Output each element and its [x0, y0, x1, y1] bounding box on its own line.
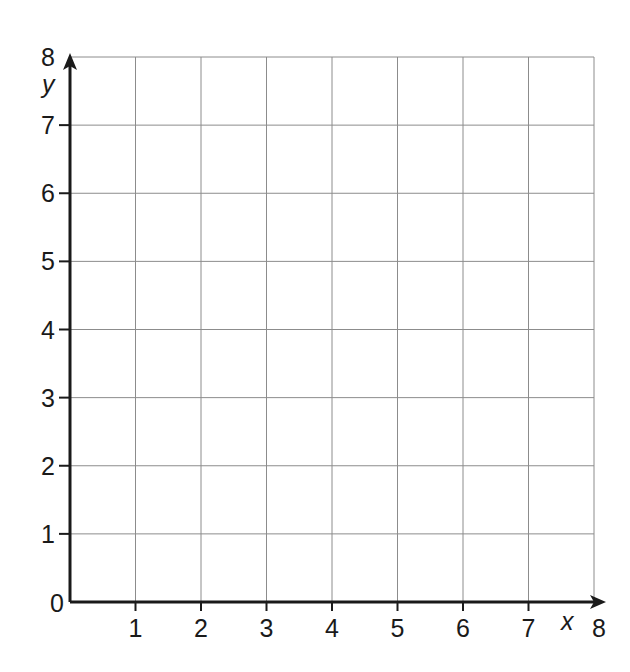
x-tick-label: 5	[391, 614, 405, 642]
tick-marks	[59, 125, 529, 611]
x-tick-label: 6	[456, 614, 470, 642]
y-tick-label: 7	[41, 111, 55, 139]
x-axis-label: x	[560, 607, 575, 635]
y-tick-label: 3	[41, 384, 55, 412]
y-tick-label: 1	[41, 520, 55, 548]
y-tick-label: 2	[41, 452, 55, 480]
x-tick-label: 1	[129, 614, 143, 642]
y-tick-label: 8	[41, 43, 55, 71]
axes	[63, 53, 606, 609]
y-tick-label: 4	[41, 316, 55, 344]
x-tick-label: 4	[325, 614, 339, 642]
tick-labels: 0 x y 1234567812345678	[40, 43, 606, 642]
x-tick-label: 3	[260, 614, 274, 642]
grid-lines	[70, 57, 594, 602]
x-tick-label: 8	[592, 614, 606, 642]
y-tick-label: 5	[41, 247, 55, 275]
y-tick-label: 6	[41, 179, 55, 207]
x-tick-label: 2	[194, 614, 208, 642]
y-axis-label: y	[40, 70, 56, 98]
coordinate-grid: 0 x y 1234567812345678	[0, 0, 630, 672]
origin-label: 0	[50, 589, 64, 617]
x-tick-label: 7	[522, 614, 536, 642]
